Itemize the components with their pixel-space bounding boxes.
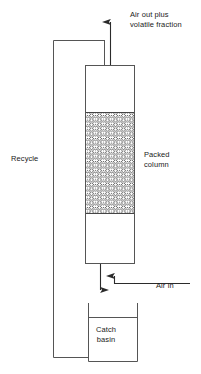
label-packed-column: Packed column bbox=[144, 150, 170, 169]
label-air-in: Air in bbox=[156, 281, 174, 291]
air-in-line bbox=[115, 276, 191, 284]
label-air-out: Air out plus volatile fraction bbox=[130, 10, 182, 29]
process-flow-diagram bbox=[0, 0, 201, 374]
packing-media bbox=[86, 112, 134, 214]
label-catch-basin: Catch basin bbox=[96, 325, 116, 344]
label-recycle: Recycle bbox=[11, 154, 38, 164]
